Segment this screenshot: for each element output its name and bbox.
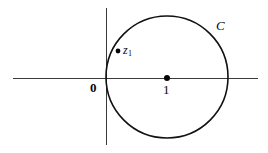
z1-label-main: z	[123, 43, 128, 57]
center-label: 1	[163, 83, 170, 96]
center-point-dot	[164, 75, 170, 81]
diagram-svg	[0, 0, 268, 153]
contour-label-c: C	[216, 19, 225, 32]
z1-point-dot	[116, 49, 121, 54]
figure-canvas: 0 1 C z1	[0, 0, 268, 153]
z1-label-subscript: 1	[128, 49, 132, 58]
z1-label: z1	[123, 44, 132, 56]
origin-label: 0	[90, 81, 97, 94]
